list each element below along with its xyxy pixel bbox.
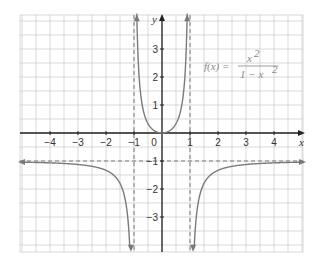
- formula-numerator-exp: 2: [254, 47, 260, 59]
- y-tick-label: −1: [147, 156, 159, 167]
- x-tick-label: −1: [128, 137, 140, 148]
- x-tick-label: 2: [215, 137, 221, 148]
- x-axis-label: x: [298, 136, 304, 148]
- y-tick-label: −3: [147, 212, 159, 223]
- arrow-down-icon: [128, 245, 134, 252]
- x-tick-label: 4: [271, 137, 277, 148]
- formula-denominator-exp: 2: [272, 63, 278, 75]
- y-tick-label: 3: [152, 44, 158, 55]
- y-axis-label: y: [151, 13, 157, 25]
- x-tick-label: 3: [243, 137, 249, 148]
- arrow-left-icon: [18, 159, 25, 165]
- x-tick-label: −2: [100, 137, 112, 148]
- formula-denominator: 1 − x: [240, 68, 263, 80]
- formula-numerator: x: [246, 52, 252, 64]
- y-tick-label: 1: [152, 100, 158, 111]
- x-tick-label: 0: [151, 137, 157, 148]
- x-tick-label: −3: [72, 137, 84, 148]
- x-tick-label: −4: [44, 137, 56, 148]
- x-tick-label: 1: [187, 137, 193, 148]
- arrow-down-icon: [190, 245, 196, 252]
- arrow-right-icon: [299, 159, 306, 165]
- tick-labels: −4−3−2−101234−3−2−1123xy: [44, 13, 304, 223]
- formula-lhs: f(x) =: [204, 60, 229, 73]
- y-tick-label: −2: [147, 184, 159, 195]
- function-graph: −4−3−2−101234−3−2−1123xy f(x) = x 2 1 − …: [0, 0, 318, 273]
- y-tick-label: 2: [152, 72, 158, 83]
- function-formula: f(x) = x 2 1 − x 2: [204, 47, 278, 80]
